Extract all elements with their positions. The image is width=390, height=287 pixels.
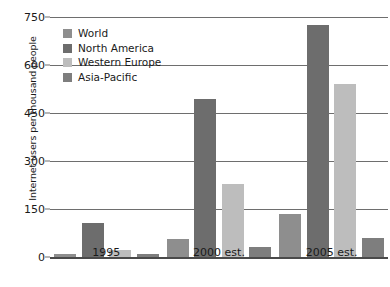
- bar: [54, 254, 76, 257]
- x-axis-label: 2000 est.: [193, 246, 245, 259]
- legend-swatch-icon: [63, 44, 72, 53]
- y-tick-label: 450: [24, 107, 45, 120]
- legend-swatch-icon: [63, 73, 72, 82]
- legend-swatch-icon: [63, 58, 72, 67]
- legend-item: Western Europe: [63, 57, 161, 68]
- y-tick-label: 0: [38, 251, 45, 264]
- legend-label: World: [78, 28, 108, 39]
- chart-legend: WorldNorth AmericaWestern EuropeAsia-Pac…: [63, 28, 161, 83]
- bar: [137, 254, 159, 257]
- y-tick-label: 750: [24, 11, 45, 24]
- legend-swatch-icon: [63, 29, 72, 38]
- bar: [362, 238, 384, 257]
- legend-label: North America: [78, 43, 154, 54]
- y-tick-label: 300: [24, 155, 45, 168]
- legend-item: Asia-Pacific: [63, 72, 161, 83]
- y-tick-label: 600: [24, 59, 45, 72]
- bar: [167, 239, 189, 257]
- bar: [334, 84, 356, 257]
- bar: [279, 214, 301, 257]
- y-tick-label: 150: [24, 203, 45, 216]
- x-axis-label: 1995: [92, 246, 120, 259]
- bar-chart: Internet users per thousand people 01503…: [0, 0, 390, 287]
- bar: [194, 99, 216, 257]
- legend-item: North America: [63, 43, 161, 54]
- legend-item: World: [63, 28, 161, 39]
- legend-label: Western Europe: [78, 57, 161, 68]
- bar: [307, 25, 329, 257]
- bar: [249, 247, 271, 257]
- legend-label: Asia-Pacific: [78, 72, 137, 83]
- x-axis-label: 2005 est.: [306, 246, 358, 259]
